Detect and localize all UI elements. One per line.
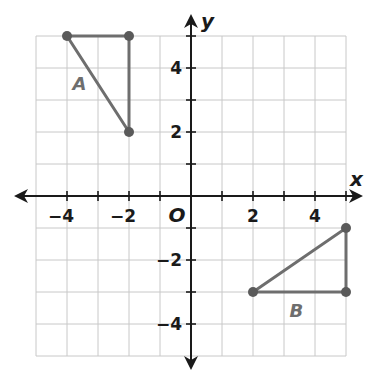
- vertex-point: [341, 287, 351, 297]
- x-tick-label: 2: [247, 206, 259, 226]
- y-tick-label: 2: [170, 122, 182, 142]
- triangle-label: B: [290, 300, 304, 321]
- triangle-b: B: [248, 223, 351, 321]
- vertex-point: [248, 287, 258, 297]
- coordinate-plane: −4−22442−2−4Oyx AB: [0, 0, 372, 381]
- triangle-label: A: [70, 73, 86, 94]
- x-tick-label: 4: [309, 206, 321, 226]
- x-tick-label: −4: [48, 206, 74, 226]
- shapes: AB: [62, 31, 351, 321]
- vertex-point: [124, 127, 134, 137]
- x-axis-label: x: [349, 167, 364, 191]
- vertex-point: [62, 31, 72, 41]
- vertex-point: [341, 223, 351, 233]
- y-axis-label: y: [201, 9, 215, 33]
- origin-label: O: [168, 203, 185, 227]
- y-tick-label: −4: [156, 314, 182, 334]
- y-tick-label: −2: [156, 250, 182, 270]
- tick-labels: −4−22442−2−4Oyx: [48, 9, 364, 334]
- y-tick-label: 4: [170, 58, 182, 78]
- x-tick-label: −2: [110, 206, 136, 226]
- axes: [14, 14, 363, 370]
- vertex-point: [124, 31, 134, 41]
